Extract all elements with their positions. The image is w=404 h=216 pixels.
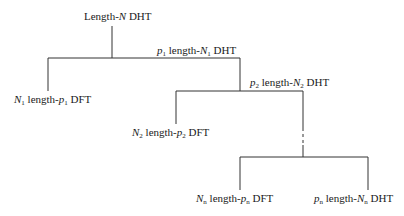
node-dhtn: pn length-Nn DHT xyxy=(314,192,393,204)
node-dftn: Nn length-pn DFT xyxy=(196,192,273,204)
node-dft2: N2 length-p2 DFT xyxy=(132,126,209,138)
node-dht2: p2 length-N2 DHT xyxy=(250,76,329,88)
dht-decomposition-diagram: Length-N DHT p1 length-N1 DHT N1 length-… xyxy=(0,0,404,216)
node-root: Length-N DHT xyxy=(84,10,152,22)
node-dht1: p1 length-N1 DHT xyxy=(157,44,236,56)
tree-connectors xyxy=(0,0,404,216)
node-dft1: N1 length-p1 DFT xyxy=(14,93,91,105)
